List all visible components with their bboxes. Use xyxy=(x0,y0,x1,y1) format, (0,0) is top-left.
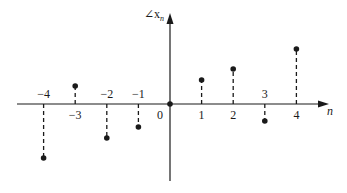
stem-marker xyxy=(262,118,268,124)
stem-marker xyxy=(136,124,142,130)
phase-spectrum-chart: ∠xn n −4−3−2−101234 xyxy=(0,0,347,193)
stem-marker xyxy=(104,135,110,141)
tick-label: −3 xyxy=(69,108,82,122)
stem-marker xyxy=(167,101,173,107)
tick-label: −4 xyxy=(37,87,50,101)
y-axis-label: ∠xn xyxy=(144,7,164,23)
stem-marker xyxy=(199,77,205,83)
tick-label: 1 xyxy=(199,108,205,122)
tick-label: 2 xyxy=(230,108,236,122)
stem-marker xyxy=(72,83,78,89)
axes xyxy=(17,13,329,181)
tick-label: −2 xyxy=(100,87,113,101)
stem-marker xyxy=(294,46,300,52)
y-axis-arrow-icon xyxy=(167,13,174,24)
tick-label: 0 xyxy=(157,108,163,122)
stem-marker xyxy=(230,66,236,72)
tick-label: −1 xyxy=(132,87,145,101)
x-axis-label: n xyxy=(327,104,333,118)
stem-marker xyxy=(41,155,47,161)
tick-label: 4 xyxy=(293,108,299,122)
tick-label: 3 xyxy=(262,87,268,101)
